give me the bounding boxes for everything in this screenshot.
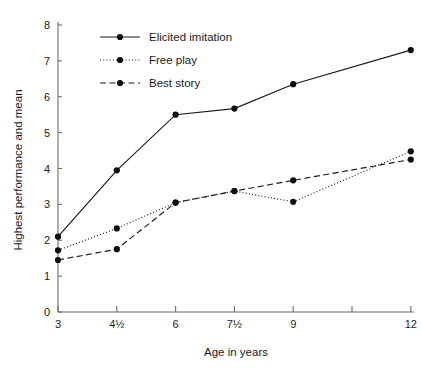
y-tick-label: 8	[44, 19, 50, 31]
data-point-marker	[55, 247, 61, 253]
chart-legend: Elicited imitationFree playBest story	[100, 31, 232, 89]
y-tick-labels: 012345678	[44, 19, 50, 318]
x-tick-label: 12	[405, 318, 417, 330]
data-point-marker	[290, 177, 296, 183]
legend-item-label: Best story	[149, 77, 200, 89]
y-tick-label: 1	[44, 270, 50, 282]
y-tick-label: 5	[44, 127, 50, 139]
y-tick-label: 4	[44, 163, 50, 175]
legend-item-label: Free play	[149, 54, 197, 66]
data-point-marker	[114, 246, 120, 252]
data-point-marker	[231, 105, 237, 111]
data-point-marker	[114, 167, 120, 173]
x-tick-label: 3	[55, 318, 61, 330]
legend-marker-icon	[117, 80, 123, 86]
y-tick-label: 0	[44, 306, 50, 318]
data-point-marker	[408, 156, 414, 162]
data-point-marker	[290, 199, 296, 205]
legend-marker-icon	[117, 57, 123, 63]
data-point-marker	[173, 112, 179, 118]
y-tick-label: 7	[44, 55, 50, 67]
x-tick-label: 4½	[109, 318, 124, 330]
series-lines	[58, 50, 411, 260]
x-tick-label: 7½	[227, 318, 242, 330]
series-line-elicited-imitation	[58, 50, 411, 237]
x-tick-labels: 34½67½912	[55, 318, 417, 330]
y-tick-label: 2	[44, 234, 50, 246]
data-point-marker	[55, 234, 61, 240]
series-markers	[55, 47, 414, 263]
data-point-marker	[408, 47, 414, 53]
x-tick-label: 6	[173, 318, 179, 330]
y-tick-label: 6	[44, 91, 50, 103]
x-axis-title: Age in years	[204, 346, 268, 358]
data-point-marker	[55, 257, 61, 263]
data-point-marker	[231, 188, 237, 194]
x-tick-label: 9	[290, 318, 296, 330]
data-point-marker	[114, 225, 120, 231]
series-line-free-play	[58, 151, 411, 250]
data-point-marker	[290, 81, 296, 87]
y-tick-label: 3	[44, 198, 50, 210]
line-chart: 012345678 34½67½912 Elicited imitationFr…	[0, 0, 422, 375]
x-tick-marks	[58, 306, 411, 312]
data-point-marker	[408, 148, 414, 154]
y-axis-title: Highest performance and mean	[12, 89, 24, 250]
legend-marker-icon	[117, 34, 123, 40]
y-tick-marks	[58, 25, 62, 312]
data-point-marker	[173, 199, 179, 205]
legend-item-label: Elicited imitation	[149, 31, 232, 43]
chart-page: 012345678 34½67½912 Elicited imitationFr…	[0, 0, 422, 375]
